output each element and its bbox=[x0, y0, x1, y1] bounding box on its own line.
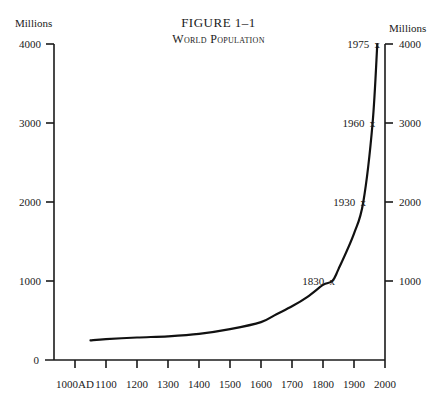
x-tick-label: 2000 bbox=[374, 378, 397, 390]
x-tick-label: 1500 bbox=[219, 378, 242, 390]
left-y-tick-label: 3000 bbox=[19, 117, 42, 129]
left-y-tick-label: 1000 bbox=[19, 275, 42, 287]
x-tick-label: 1700 bbox=[281, 378, 304, 390]
right-y-tick-label: 4000 bbox=[399, 38, 422, 50]
population-curve bbox=[91, 44, 378, 340]
data-point-label: 1830 bbox=[302, 275, 325, 287]
left-y-tick-label: 2000 bbox=[19, 196, 42, 208]
x-tick-label: 1100 bbox=[95, 378, 117, 390]
x-tick-label: 1400 bbox=[188, 378, 211, 390]
data-point-marker: x bbox=[330, 275, 336, 287]
left-y-tick-label: 4000 bbox=[19, 38, 42, 50]
x-tick-label: 1800 bbox=[312, 378, 335, 390]
data-point-marker: x bbox=[361, 196, 367, 208]
x-tick-label: 1300 bbox=[157, 378, 180, 390]
left-y-tick-label: 0 bbox=[34, 354, 40, 366]
data-point-marker: x bbox=[370, 117, 376, 129]
data-point-label: 1930 bbox=[333, 196, 356, 208]
population-chart: 0100020003000400010002000300040001000AD1… bbox=[0, 0, 437, 402]
x-tick-label: 1000AD bbox=[56, 378, 94, 390]
data-point-label: 1975 bbox=[347, 38, 370, 50]
right-y-tick-label: 3000 bbox=[399, 117, 422, 129]
right-y-tick-label: 2000 bbox=[399, 196, 422, 208]
x-tick-label: 1600 bbox=[250, 378, 273, 390]
data-point-label: 1960 bbox=[343, 117, 366, 129]
right-y-tick-label: 1000 bbox=[399, 275, 422, 287]
data-point-marker: x bbox=[375, 38, 381, 50]
x-tick-label: 1200 bbox=[126, 378, 149, 390]
x-tick-label: 1900 bbox=[343, 378, 366, 390]
